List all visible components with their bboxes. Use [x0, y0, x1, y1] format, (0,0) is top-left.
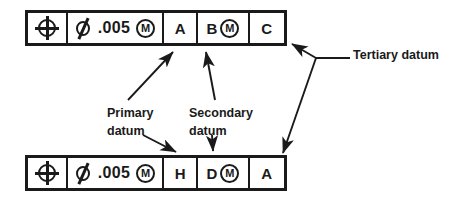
primary-datum-label: Primary datum [107, 104, 154, 140]
secondary-datum-letter: B [207, 21, 218, 36]
tertiary-datum-leader-up [292, 44, 316, 58]
secondary-datum-letter: D [207, 166, 218, 181]
position-symbol-cell [28, 158, 68, 188]
diagram-canvas: .005 M A B M C [0, 0, 468, 203]
tolerance-cell: .005 M [68, 13, 164, 43]
mmc-modifier-symbol-icon: M [220, 164, 239, 183]
mmc-letter: M [136, 164, 155, 183]
lower-feature-control-frame: .005 M H D M A [25, 155, 287, 191]
mmc-modifier-symbol-icon: M [136, 164, 155, 183]
tertiary-datum-cell: C [250, 13, 285, 43]
secondary-datum-cell: D M [198, 158, 249, 188]
secondary-datum-cell: B M [198, 13, 249, 43]
primary-datum-letter: H [175, 166, 186, 181]
tolerance-value: .005 [98, 165, 130, 181]
tertiary-datum-letter: C [261, 21, 272, 36]
mmc-modifier-symbol-icon: M [136, 19, 155, 38]
tertiary-datum-letter: A [261, 166, 272, 181]
tolerance-value: .005 [98, 20, 130, 36]
primary-datum-cell: H [164, 158, 199, 188]
primary-datum-letter: A [175, 21, 186, 36]
primary-datum-leader-up [128, 52, 173, 100]
primary-datum-cell: A [164, 13, 199, 43]
tertiary-datum-leader-down [283, 58, 316, 153]
position-symbol-cell [28, 13, 68, 43]
secondary-datum-label: Secondary datum [189, 104, 253, 140]
diameter-symbol-icon [75, 18, 92, 39]
mmc-letter: M [220, 19, 239, 38]
tolerance-cell: .005 M [68, 158, 164, 188]
secondary-datum-leader-up [206, 52, 215, 100]
mmc-letter: M [220, 164, 239, 183]
position-symbol-icon [35, 16, 59, 40]
mmc-letter: M [136, 19, 155, 38]
diameter-symbol-icon [75, 163, 92, 184]
mmc-modifier-symbol-icon: M [220, 19, 239, 38]
tertiary-datum-cell: A [250, 158, 285, 188]
tertiary-datum-label: Tertiary datum [353, 46, 439, 64]
position-symbol-icon [35, 161, 59, 185]
upper-feature-control-frame: .005 M A B M C [25, 10, 287, 46]
